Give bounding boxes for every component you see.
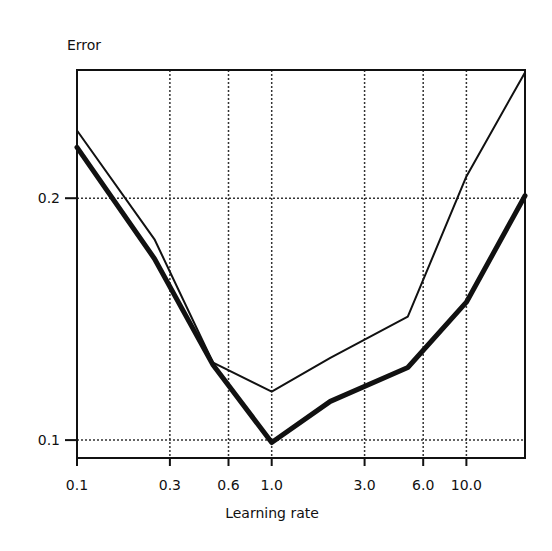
x-tick-label: 3.0 xyxy=(353,477,375,493)
y-axis-label: Error xyxy=(67,37,101,53)
thick-error-line xyxy=(77,147,525,442)
x-axis-ticks: 0.10.30.61.03.06.010.0 xyxy=(66,458,482,493)
plot-frame xyxy=(77,70,525,458)
y-axis-ticks: 0.10.2 xyxy=(38,190,77,448)
y-tick-label: 0.1 xyxy=(38,432,60,448)
thin-error-line xyxy=(77,72,525,391)
x-tick-label: 0.1 xyxy=(66,477,88,493)
x-tick-label: 6.0 xyxy=(412,477,434,493)
x-tick-label: 0.3 xyxy=(159,477,181,493)
learning-rate-error-chart: Error 0.10.30.61.03.06.010.0 0.10.2 Lear… xyxy=(0,0,552,551)
x-tick-label: 0.6 xyxy=(217,477,239,493)
x-tick-label: 10.0 xyxy=(451,477,482,493)
grid-lines xyxy=(77,70,525,458)
y-tick-label: 0.2 xyxy=(38,190,60,206)
x-axis-label: Learning rate xyxy=(225,505,319,521)
x-tick-label: 1.0 xyxy=(261,477,283,493)
data-series xyxy=(77,72,525,442)
